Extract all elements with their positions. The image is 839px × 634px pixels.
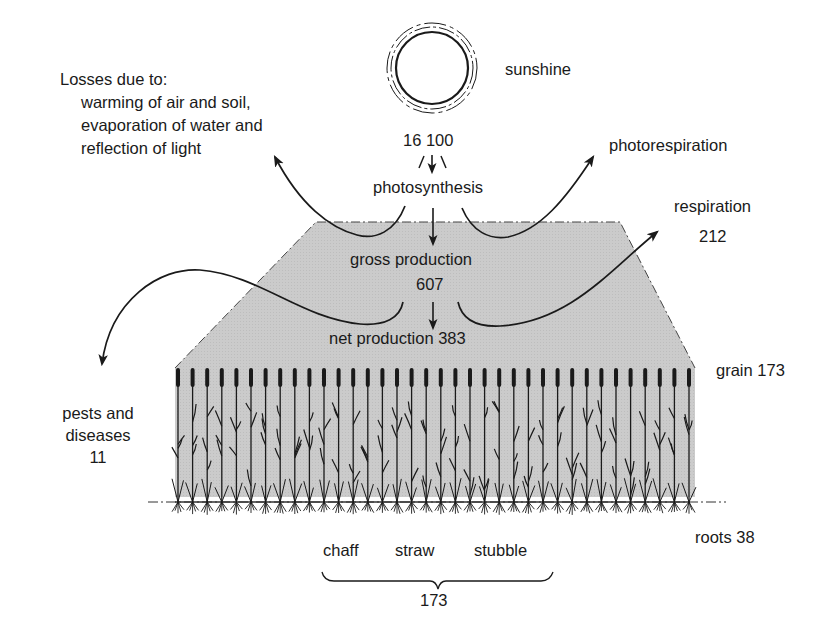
residue-chaff: chaff	[323, 541, 358, 560]
net-production-label: net production 383	[329, 329, 466, 348]
photorespiration-label: photorespiration	[609, 136, 727, 155]
pests-line-1: pests and	[48, 404, 148, 423]
losses-title: Losses due to:	[60, 70, 167, 89]
residue-stubble: stubble	[474, 541, 527, 560]
roots-label: roots 38	[695, 528, 755, 547]
losses-line-3: reflection of light	[81, 139, 201, 158]
sun-icon	[387, 23, 477, 113]
pests-line-2: diseases	[48, 426, 148, 445]
sunshine-value: 16 100	[403, 131, 453, 150]
gross-production-value: 607	[416, 275, 444, 294]
residues-brace	[322, 572, 553, 589]
pests-value: 11	[48, 448, 148, 467]
residue-straw: straw	[395, 541, 434, 560]
respiration-value: 212	[699, 227, 727, 246]
losses-line-2: evaporation of water and	[81, 116, 263, 135]
residues-total: 173	[420, 591, 448, 610]
losses-line-1: warming of air and soil,	[81, 93, 251, 112]
respiration-label: respiration	[674, 197, 751, 216]
grain-label: grain 173	[716, 361, 785, 380]
gross-production-label: gross production	[350, 250, 472, 269]
photosynthesis-label: photosynthesis	[373, 178, 483, 197]
sunshine-label: sunshine	[505, 60, 571, 79]
